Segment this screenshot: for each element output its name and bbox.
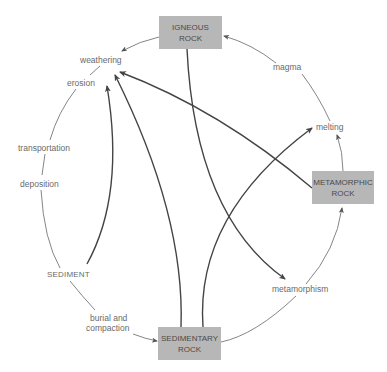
sedimentary-rock-label-line2: ROCK [158, 344, 221, 355]
arrow-metamorphism-to-metamorphic [306, 208, 342, 284]
metamorphic-rock-label-line2: ROCK [312, 188, 374, 199]
igneous-rock-label-line2: ROCK [159, 33, 222, 44]
burial-label-line2: compaction [86, 323, 129, 333]
transportation-label: transportation [18, 143, 70, 153]
arrow-sedimentary-to-weathering [115, 75, 181, 327]
sedimentary-rock-label-line1: SEDIMENTARY [158, 333, 221, 344]
sediment-label: SEDIMENT [47, 270, 90, 280]
arrow-burial-to-sedimentary [133, 334, 157, 341]
metamorphic-rock-label-line1: METAMORPHIC [312, 177, 374, 188]
igneous-rock-box: IGNEOUS ROCK [159, 16, 222, 49]
line-sediment-to-burial [70, 281, 95, 310]
arrow-sedimentary-to-melting [202, 128, 312, 327]
arrow-magma-to-igneous [224, 36, 276, 63]
arrow-sediment-to-erosion [87, 86, 113, 264]
arrow-metamorphic-to-weathering [120, 72, 312, 188]
line-transportation-to-deposition [42, 154, 45, 175]
line-erosion-to-transportation [50, 89, 76, 140]
erosion-label: erosion [67, 78, 95, 88]
line-melting-to-magma [302, 74, 330, 121]
sedimentary-rock-box: SEDIMENTARY ROCK [158, 327, 221, 360]
line-sedimentary-to-metamorphism [221, 296, 296, 342]
arrow-igneous-to-weathering [122, 37, 159, 51]
line-deposition-to-sediment [41, 190, 60, 268]
melting-label: melting [316, 122, 343, 132]
burial-label-line1: burial and [90, 313, 127, 323]
igneous-rock-label-line1: IGNEOUS [159, 22, 222, 33]
magma-label: magma [273, 62, 301, 72]
metamorphic-rock-box: METAMORPHIC ROCK [312, 171, 374, 204]
deposition-label: deposition [20, 179, 59, 189]
weathering-label: weathering [80, 55, 122, 65]
line-weathering-to-erosion [90, 66, 100, 75]
arrow-metamorphic-to-melting [337, 135, 343, 171]
metamorphism-label: metamorphism [272, 284, 328, 294]
